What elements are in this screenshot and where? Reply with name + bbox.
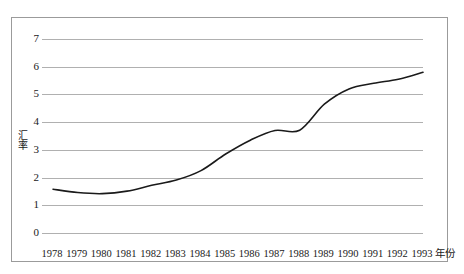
- x-tick-label-1987: 1987: [262, 247, 286, 260]
- x-tick-label-1982: 1982: [139, 247, 163, 260]
- x-tick-label-1979: 1979: [65, 247, 89, 260]
- x-tick-label-1984: 1984: [188, 247, 212, 260]
- x-tick-label-1993: 1993: [410, 247, 434, 260]
- x-tick-label-1988: 1988: [287, 247, 311, 260]
- x-axis-title: 年份: [435, 247, 455, 260]
- top-cropped-text: [6, 0, 306, 9]
- figure-root: 01234567 汇率 1978197919801981198219831984…: [0, 0, 464, 274]
- x-tick-label-1980: 1980: [89, 247, 113, 260]
- plot-area: 01234567 汇率: [12, 18, 447, 261]
- x-tick-label-1989: 1989: [311, 247, 335, 260]
- chart-frame: 01234567 汇率: [11, 17, 448, 262]
- data-series-svg: [12, 18, 447, 261]
- x-tick-label-1990: 1990: [336, 247, 360, 260]
- x-tick-label-1991: 1991: [361, 247, 385, 260]
- x-tick-label-1978: 1978: [40, 247, 64, 260]
- x-tick-label-1985: 1985: [213, 247, 237, 260]
- x-tick-label-1983: 1983: [163, 247, 187, 260]
- x-tick-label-1981: 1981: [114, 247, 138, 260]
- x-tick-label-1986: 1986: [237, 247, 261, 260]
- x-axis-tick-group: 1978197919801981198219831984198519861987…: [11, 247, 448, 261]
- line-series-exchange-rate: [53, 72, 423, 193]
- x-tick-label-1992: 1992: [385, 247, 409, 260]
